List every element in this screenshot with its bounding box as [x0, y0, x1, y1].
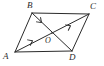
vertex-label-D: D	[69, 53, 76, 62]
vertex-label-C: C	[90, 2, 96, 11]
side-BC	[32, 13, 89, 14]
side-DA	[15, 51, 72, 52]
side-CD	[72, 14, 89, 51]
diagonal-BD	[32, 13, 72, 51]
vertex-label-A: A	[3, 52, 9, 61]
intersection-point-O	[51, 32, 53, 34]
geometry-figure: B C A D O	[0, 0, 104, 66]
vertex-label-O: O	[45, 36, 51, 45]
vertex-label-B: B	[27, 1, 33, 10]
arrow-mark-AO	[28, 38, 34, 45]
parallelogram-diagram-svg	[0, 0, 104, 66]
side-AB	[15, 13, 32, 52]
